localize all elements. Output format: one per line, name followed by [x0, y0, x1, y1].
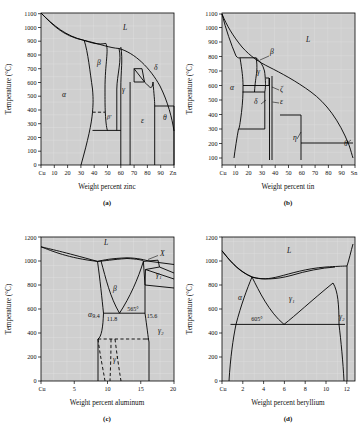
phase-label-L-a: L [122, 23, 127, 32]
x-axis-label-b: Weight percent tin [262, 183, 315, 191]
y-axis-ticks-b [219, 14, 222, 158]
svg-text:1000: 1000 [205, 24, 217, 31]
x-axis-label-c: Weight percent aluminum [70, 399, 145, 407]
phase-label-beta-a: β [96, 58, 101, 67]
svg-text:500: 500 [208, 96, 217, 103]
y-axis-label-b: Temperature (°C) [186, 63, 194, 114]
panel-a: 0 100 200 300 400 500 600 700 800 900 10… [0, 0, 181, 220]
panel-b: 100 200 300 400 500 600 700 800 900 1000… [181, 0, 362, 220]
panel-caption-a: (a) [103, 199, 112, 207]
svg-text:600: 600 [27, 305, 36, 312]
svg-text:800: 800 [208, 281, 217, 288]
annotation-605: 605° [251, 316, 263, 322]
phase-label-epsilon-b: ε [280, 97, 283, 106]
svg-text:90: 90 [339, 169, 345, 176]
y-axis-ticks-d [219, 237, 222, 381]
svg-text:70: 70 [131, 169, 137, 176]
svg-text:20: 20 [170, 385, 176, 392]
phase-label-beta-c: β [112, 284, 117, 293]
svg-text:1200: 1200 [24, 234, 36, 241]
svg-text:200: 200 [208, 353, 217, 360]
svg-text:10: 10 [232, 169, 238, 176]
svg-text:400: 400 [208, 329, 217, 336]
panel-caption-b: (b) [284, 199, 293, 207]
x-axis-label-a: Weight percent zinc [78, 183, 135, 191]
svg-text:0: 0 [214, 377, 217, 384]
svg-text:4: 4 [262, 385, 265, 392]
svg-text:Sn: Sn [351, 169, 358, 176]
y-tick-labels-c: 0 200 400 600 800 1000 1200 [24, 234, 36, 385]
x-tick-labels-b: Cu 10 20 30 40 50 60 70 80 90 Sn [219, 169, 357, 176]
svg-text:10: 10 [104, 385, 110, 392]
svg-text:80: 80 [144, 169, 150, 176]
svg-text:6: 6 [283, 385, 286, 392]
svg-text:0: 0 [33, 377, 36, 384]
panel-caption-c: (c) [103, 415, 111, 423]
phase-label-beta-b: β [269, 47, 274, 56]
x-axis-ticks-a [41, 165, 174, 168]
phase-label-gamma2-d: γ₂ [339, 312, 345, 321]
svg-text:400: 400 [27, 106, 36, 113]
annotation-15-6: 15.6 [147, 313, 158, 319]
plot-area-d [222, 237, 355, 381]
panel-c: 0 200 400 600 800 1000 1200 Temperature … [0, 217, 181, 439]
figure-root: 0 100 200 300 400 500 600 700 800 900 10… [0, 0, 362, 439]
svg-text:700: 700 [27, 65, 36, 72]
phase-label-gamma2-c: γ₂ [158, 326, 164, 335]
svg-text:300: 300 [208, 125, 217, 132]
svg-text:1000: 1000 [24, 24, 36, 31]
svg-text:900: 900 [27, 37, 36, 44]
svg-text:1000: 1000 [24, 257, 36, 264]
phase-label-eta-b: η [293, 133, 297, 142]
svg-text:600: 600 [27, 79, 36, 86]
panel-b-svg: 100 200 300 400 500 600 700 800 900 1000… [181, 0, 362, 220]
svg-text:1100: 1100 [24, 10, 36, 17]
svg-text:Cu: Cu [38, 169, 45, 176]
phase-label-delta-b: δ [254, 97, 258, 106]
panel-c-svg: 0 200 400 600 800 1000 1200 Temperature … [0, 217, 181, 439]
y-axis-ticks-c [38, 237, 41, 381]
svg-text:Cu: Cu [38, 385, 45, 392]
svg-text:10: 10 [51, 169, 57, 176]
phase-label-betaprime-a: β′ [106, 113, 112, 120]
svg-text:90: 90 [158, 169, 164, 176]
svg-text:40: 40 [272, 169, 278, 176]
svg-text:800: 800 [27, 281, 36, 288]
phase-label-delta-a: δ [154, 63, 158, 72]
svg-text:8: 8 [304, 385, 307, 392]
svg-text:10: 10 [323, 385, 329, 392]
svg-text:500: 500 [27, 92, 36, 99]
plot-area-a [41, 13, 174, 165]
y-tick-labels-b: 100 200 300 400 500 600 700 800 900 1000… [205, 10, 217, 161]
x-axis-label-d: Weight percent beryllium [251, 399, 325, 407]
svg-text:70: 70 [312, 169, 318, 176]
svg-text:20: 20 [65, 169, 71, 176]
phase-label-theta-b: θ [344, 139, 348, 148]
phase-label-L-d: L [286, 246, 291, 255]
svg-text:Zn: Zn [170, 169, 177, 176]
svg-text:30: 30 [78, 169, 84, 176]
svg-text:100: 100 [208, 154, 217, 161]
svg-text:100: 100 [27, 147, 36, 154]
phase-label-theta-a: θ [163, 113, 167, 122]
svg-text:200: 200 [208, 140, 217, 147]
svg-text:700: 700 [208, 67, 217, 74]
phase-label-X-c: X [159, 249, 165, 258]
x-axis-ticks-d [222, 381, 347, 384]
x-axis-ticks-c [41, 381, 174, 384]
annotations-d: 605° [251, 316, 263, 322]
svg-text:0: 0 [33, 161, 36, 168]
svg-text:60: 60 [299, 169, 305, 176]
svg-text:Cu: Cu [219, 385, 226, 392]
svg-text:12: 12 [344, 385, 350, 392]
y-axis-ticks-a [38, 14, 41, 165]
svg-text:600: 600 [208, 82, 217, 89]
phase-label-epsilon-a: ε [141, 116, 144, 125]
svg-text:50: 50 [285, 169, 291, 176]
phase-label-L-c: L [103, 238, 108, 247]
svg-text:400: 400 [27, 329, 36, 336]
svg-text:80: 80 [325, 169, 331, 176]
panel-caption-d: (d) [284, 415, 293, 423]
y-axis-label-c: Temperature (°C) [5, 283, 13, 334]
svg-text:20: 20 [246, 169, 252, 176]
